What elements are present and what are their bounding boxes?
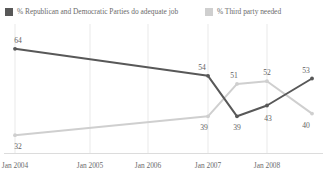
data-label: 32	[14, 142, 22, 151]
plot-svg	[0, 24, 327, 159]
legend-swatch-dark-icon	[5, 8, 13, 16]
x-axis-tick: Jan 2008	[254, 161, 280, 171]
cut-off-title	[0, 0, 327, 5]
legend-item-adequate-job[interactable]: % Republican and Democratic Parties do a…	[5, 7, 178, 16]
x-axis-labels: Jan 2004Jan 2005Jan 2006Jan 2007Jan 2008	[0, 161, 327, 175]
data-label: 43	[264, 113, 272, 122]
data-label: 64	[14, 35, 22, 44]
data-label: 51	[230, 70, 238, 79]
data-label: 39	[200, 123, 208, 132]
series-line-third-party	[13, 79, 314, 137]
legend-swatch-light-icon	[205, 8, 213, 16]
legend-label-adequate-job: % Republican and Democratic Parties do a…	[17, 7, 178, 16]
data-label: 39	[233, 123, 241, 132]
data-label: 54	[198, 62, 206, 71]
data-label: 52	[263, 68, 271, 77]
x-axis-tick: Jan 2006	[135, 161, 161, 171]
data-label: 53	[302, 65, 310, 74]
plot-area: 64543943533239515240	[0, 24, 327, 159]
chart-legend: % Republican and Democratic Parties do a…	[0, 7, 327, 21]
gridlines	[15, 24, 267, 153]
legend-item-third-party[interactable]: % Third party needed	[205, 7, 281, 16]
line-chart: % Republican and Democratic Parties do a…	[0, 0, 327, 185]
x-axis-tick: Jan 2007	[195, 161, 221, 171]
legend-label-third-party: % Third party needed	[217, 7, 281, 16]
x-axis-tick: Jan 2005	[77, 161, 103, 171]
data-label: 40	[302, 120, 310, 129]
x-axis-tick: Jan 2004	[2, 161, 28, 171]
